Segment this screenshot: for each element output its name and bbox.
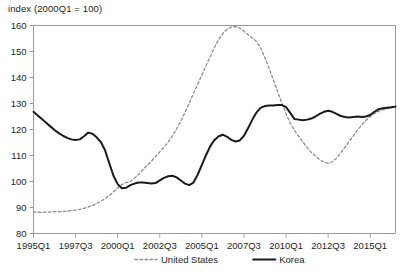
legend-label-korea: Korea	[279, 254, 305, 265]
x-tick-label: 2002Q3	[143, 240, 177, 251]
chart-figure: index (2000Q1 = 100) 8090100110120130140…	[0, 0, 406, 276]
series-line-united-states	[34, 27, 396, 213]
legend-label-united-states: United States	[161, 254, 218, 265]
x-tick-label: 1995Q1	[17, 240, 51, 251]
x-tick-label: 2007Q3	[227, 240, 261, 251]
y-tick-label: 120	[11, 124, 27, 135]
x-tick-label: 2005Q1	[185, 240, 219, 251]
line-chart-svg: 80901001101201301401501601995Q11997Q3200…	[0, 0, 406, 276]
y-tick-label: 160	[11, 20, 27, 31]
plot-area: 80901001101201301401501601995Q11997Q3200…	[0, 0, 406, 276]
y-tick-label: 100	[11, 176, 27, 187]
series-line-korea	[34, 105, 396, 188]
x-tick-label: 2010Q1	[269, 240, 303, 251]
y-tick-label: 150	[11, 46, 27, 57]
y-tick-label: 110	[11, 150, 26, 161]
y-tick-label: 130	[11, 98, 27, 109]
x-tick-label: 2000Q1	[101, 240, 135, 251]
y-tick-label: 80	[16, 228, 27, 239]
x-tick-label: 2015Q1	[353, 240, 387, 251]
y-tick-label: 140	[11, 72, 27, 83]
x-tick-label: 1997Q3	[59, 240, 93, 251]
y-tick-label: 90	[16, 202, 27, 213]
x-tick-label: 2012Q3	[311, 240, 345, 251]
